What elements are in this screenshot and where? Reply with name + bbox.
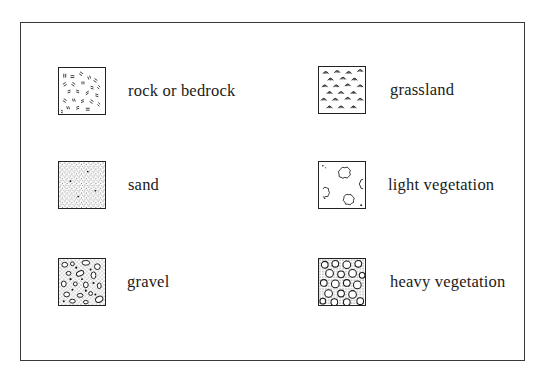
legend-label-sand: sand — [128, 175, 159, 195]
grassland-pattern-icon — [318, 66, 366, 114]
legend-label-grassland: grassland — [390, 80, 454, 100]
legend-label-heavy-vegetation: heavy vegetation — [390, 272, 505, 292]
legend-item-heavy-vegetation: heavy vegetation — [318, 258, 505, 306]
legend-item-rock: rock or bedrock — [58, 67, 235, 115]
rock-pattern-icon — [58, 67, 106, 115]
legend-item-light-vegetation: light vegetation — [318, 161, 494, 209]
legend-item-grassland: grassland — [318, 66, 454, 114]
sand-pattern-icon — [58, 161, 106, 209]
legend-item-gravel: gravel — [58, 258, 169, 306]
light-vegetation-pattern-icon — [318, 161, 366, 209]
heavy-vegetation-pattern-icon — [318, 258, 366, 306]
gravel-pattern-icon — [58, 258, 106, 306]
legend-item-sand: sand — [58, 161, 159, 209]
legend-label-rock: rock or bedrock — [128, 81, 235, 101]
legend-label-light-vegetation: light vegetation — [388, 175, 494, 195]
legend-label-gravel: gravel — [127, 272, 169, 292]
